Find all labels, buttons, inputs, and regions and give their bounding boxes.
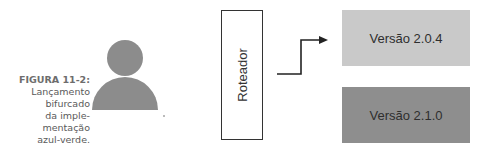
figure-label: FIGURA 11-2: bbox=[8, 74, 90, 86]
version-box-blue: Versão 2.0.4 bbox=[342, 10, 470, 66]
version-label: Versão 2.0.4 bbox=[370, 31, 443, 46]
version-label: Versão 2.1.0 bbox=[370, 108, 443, 123]
user-icon bbox=[92, 40, 158, 110]
arrow-right-icon bbox=[270, 30, 340, 80]
caption-line: mentação bbox=[8, 122, 90, 134]
caption-line: da imple- bbox=[8, 110, 90, 122]
stray-mark bbox=[163, 115, 165, 117]
router-label: Roteador bbox=[235, 48, 250, 101]
caption-line: bifurcado bbox=[8, 98, 90, 110]
router-box: Roteador bbox=[221, 10, 263, 140]
caption-line: azul-verde. bbox=[8, 134, 90, 146]
caption-line: Lançamento bbox=[8, 86, 90, 98]
figure-caption: FIGURA 11-2: Lançamento bifurcado da imp… bbox=[8, 74, 90, 146]
version-box-green: Versão 2.1.0 bbox=[342, 87, 470, 143]
